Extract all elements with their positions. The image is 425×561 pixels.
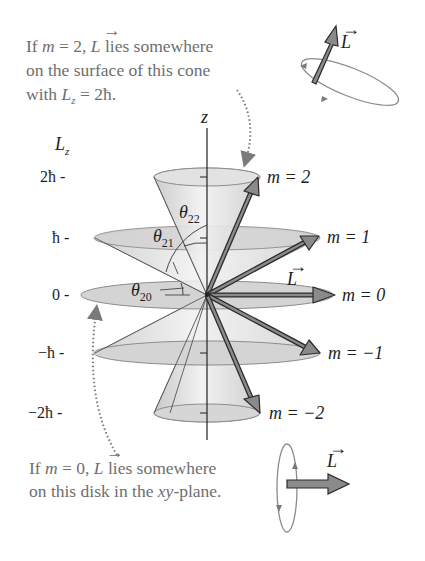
precession-inset-m2: L →	[297, 19, 404, 114]
top-caption: If m = 2, L lies somewhere → on the surf…	[26, 20, 214, 106]
label-m-1: m = 1	[327, 227, 370, 247]
tick-minus-hbar: −ħ -	[38, 344, 64, 361]
lz-axis-labels: Lz 2ħ - ħ - 0 - −ħ - −2ħ -	[28, 134, 70, 421]
label-m-minus-1: m = −1	[328, 343, 383, 363]
label-m-0: m = 0	[342, 285, 385, 305]
svg-text:on this disk in the xy-plane.: on this disk in the xy-plane.	[29, 481, 221, 501]
tick-hbar: ħ -	[52, 229, 69, 246]
tick-0: 0 -	[52, 286, 69, 303]
svg-text:on the surface of this cone: on the surface of this cone	[26, 60, 210, 80]
svg-text:→: →	[289, 256, 307, 276]
svg-text:Lz: Lz	[54, 134, 70, 157]
label-m-minus-2: m = −2	[269, 403, 324, 423]
orbit-arrowhead	[276, 505, 282, 512]
z-axis-label: z	[200, 107, 208, 127]
precession-inset-m0: L →	[276, 438, 349, 532]
bottom-caption: If m = 0, L lies somewhere → on this dis…	[29, 442, 221, 501]
l-vector-arrow-icon	[312, 26, 338, 84]
dotted-pointer-bottom	[93, 312, 117, 455]
dotted-pointer-top	[237, 90, 250, 160]
angular-momentum-diagram: If m = 2, L lies somewhere → on the surf…	[0, 0, 425, 561]
svg-text:→: →	[329, 438, 347, 458]
svg-text:→: →	[342, 19, 360, 39]
orbit-arrowhead	[292, 462, 298, 469]
label-m-2: m = 2	[267, 167, 310, 187]
tick-minus-2hbar: −2ħ -	[28, 404, 62, 421]
svg-text:→: →	[106, 442, 124, 462]
vector-arrow-accent: →	[103, 20, 121, 40]
svg-text:with Lz = 2ħ.: with Lz = 2ħ.	[26, 84, 116, 106]
tick-2hbar: 2ħ -	[40, 168, 65, 185]
orbit-arrowhead	[321, 96, 328, 102]
